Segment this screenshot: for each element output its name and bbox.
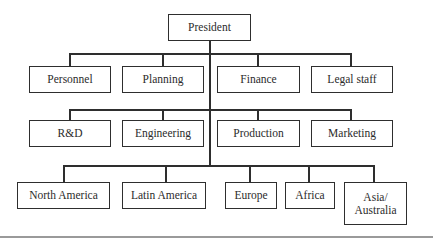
connector [69, 53, 71, 66]
node-president: President [168, 14, 251, 41]
node-north-america: North America [17, 182, 110, 209]
node-label: Engineering [135, 127, 191, 140]
connector [162, 53, 164, 66]
bottom-rule-divider [0, 236, 433, 238]
node-latin-america: Latin America [122, 182, 206, 209]
connector [165, 165, 167, 182]
node-europe: Europe [225, 182, 277, 209]
function-bus-connector [69, 109, 352, 111]
node-label: Planning [143, 73, 184, 86]
node-africa: Africa [285, 182, 335, 209]
node-personnel: Personnel [29, 66, 111, 93]
node-production: Production [217, 120, 300, 147]
connector [373, 165, 375, 182]
region-bus-connector [63, 165, 375, 167]
node-label-line1: Asia/ [363, 191, 387, 204]
connector [63, 165, 65, 182]
staff-bus-connector [69, 53, 352, 55]
connector [249, 165, 251, 182]
node-label: Legal staff [327, 73, 376, 86]
node-label: Personnel [47, 73, 92, 86]
node-label: Europe [234, 189, 267, 202]
connector [350, 109, 352, 120]
node-label: Africa [295, 189, 324, 202]
node-label: North America [29, 189, 98, 202]
node-planning: Planning [122, 66, 204, 93]
connector [257, 109, 259, 120]
node-engineering: Engineering [122, 120, 204, 147]
node-finance: Finance [217, 66, 300, 93]
node-marketing: Marketing [311, 120, 393, 147]
node-label: Latin America [131, 189, 197, 202]
connector [162, 109, 164, 120]
node-rnd: R&D [29, 120, 111, 147]
node-label: Finance [240, 73, 276, 86]
connector [350, 53, 352, 66]
node-label: President [188, 21, 231, 34]
connector [69, 109, 71, 120]
trunk-connector [209, 40, 211, 166]
node-label-line2: Australia [354, 204, 396, 217]
node-asia-australia: Asia/ Australia [344, 182, 407, 225]
node-legal-staff: Legal staff [311, 66, 393, 93]
node-label: R&D [58, 127, 83, 140]
connector [257, 53, 259, 66]
node-label: Production [233, 127, 283, 140]
connector [308, 165, 310, 182]
node-label: Marketing [328, 127, 376, 140]
